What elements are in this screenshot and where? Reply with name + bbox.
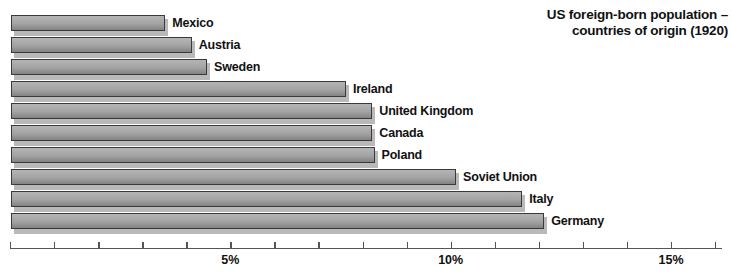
- bar: [11, 213, 544, 229]
- bar: [11, 147, 375, 163]
- axis-tick-label: 15%: [658, 253, 683, 267]
- axis-major-tick: [451, 242, 452, 249]
- axis-minor-tick: [98, 242, 99, 249]
- bar: [11, 15, 165, 31]
- bar-label: Italy: [529, 191, 553, 207]
- axis-minor-tick: [583, 242, 584, 249]
- bar: [11, 59, 207, 75]
- bar-label: Mexico: [172, 15, 213, 31]
- axis-minor-tick: [10, 242, 11, 249]
- axis-major-tick: [230, 242, 231, 249]
- bar-label: Germany: [551, 213, 604, 229]
- x-axis-line: [10, 248, 722, 249]
- axis-minor-tick: [627, 242, 628, 249]
- bar: [11, 37, 192, 53]
- bar-label: Sweden: [214, 59, 260, 75]
- axis-minor-tick: [363, 242, 364, 249]
- bar-label: Ireland: [353, 81, 393, 97]
- bar: [11, 81, 346, 97]
- axis-minor-tick: [318, 242, 319, 249]
- axis-tick-label: 10%: [438, 253, 463, 267]
- axis-major-tick: [671, 242, 672, 249]
- axis-minor-tick: [186, 242, 187, 249]
- plot-area: MexicoAustriaSwedenIrelandUnited Kingdom…: [0, 0, 732, 240]
- axis-tick-label: 5%: [221, 253, 239, 267]
- x-axis: 5%10%15%: [0, 242, 732, 277]
- axis-minor-tick: [407, 242, 408, 249]
- axis-minor-tick: [274, 242, 275, 249]
- bar-label: Austria: [199, 37, 241, 53]
- bar-label: Canada: [379, 125, 423, 141]
- bar: [11, 191, 522, 207]
- axis-minor-tick: [495, 242, 496, 249]
- bar: [11, 103, 372, 119]
- axis-minor-tick: [715, 242, 716, 249]
- bar-label: Soviet Union: [463, 169, 537, 185]
- bar: [11, 125, 372, 141]
- axis-minor-tick: [539, 242, 540, 249]
- bar: [11, 169, 456, 185]
- axis-minor-tick: [54, 242, 55, 249]
- bar-chart: US foreign-born population – countries o…: [0, 0, 732, 277]
- axis-minor-tick: [142, 242, 143, 249]
- bar-label: Poland: [382, 147, 422, 163]
- bar-label: United Kingdom: [379, 103, 473, 119]
